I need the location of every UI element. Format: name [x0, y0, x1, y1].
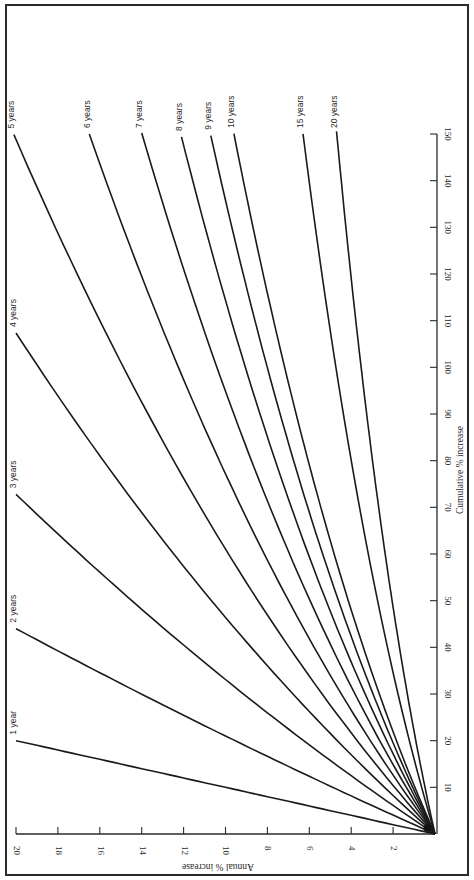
cumulative-tick-label: 150: [443, 127, 453, 141]
cumulative-tick-label: 100: [443, 361, 453, 375]
annual-tick-label: 18: [54, 846, 64, 856]
annual-tick-label: 4: [347, 846, 357, 851]
origin-marker: [424, 825, 431, 832]
annual-tick-label: 2: [389, 846, 399, 851]
curve-10-years: [234, 134, 435, 834]
curve-3-years: [16, 494, 435, 834]
chart: 2468101214161820102030405060708090100110…: [0, 0, 474, 880]
cumulative-tick-label: 10: [443, 783, 453, 793]
cumulative-tick-label: 80: [443, 456, 453, 466]
curve-label: 1 year: [8, 711, 18, 735]
curve-6-years: [89, 134, 435, 834]
cumulative-tick-label: 110: [443, 314, 453, 328]
curve-5-years: [14, 135, 435, 834]
curve-label: 20 years: [329, 95, 339, 128]
curve-label: 9 years: [203, 102, 213, 130]
axes: 2468101214161820102030405060708090100110…: [12, 127, 453, 855]
curve-2-years: [16, 629, 435, 834]
cumulative-axis-title: Cumulative % increase: [455, 426, 465, 514]
curve-15-years: [303, 134, 435, 834]
cumulative-tick-label: 90: [443, 410, 453, 420]
curve-label: 10 years: [226, 95, 236, 128]
annual-tick-label: 6: [305, 846, 315, 851]
curve-20-years: [337, 131, 436, 834]
annual-tick-label: 16: [96, 846, 106, 856]
curve-label: 8 years: [174, 103, 184, 131]
curve-label: 4 years: [8, 299, 18, 327]
annual-axis-title: Annual % increase: [182, 862, 254, 872]
annual-tick-label: 8: [263, 846, 273, 851]
annual-tick-label: 14: [138, 846, 148, 856]
cumulative-tick-label: 30: [443, 690, 453, 700]
curve-label: 7 years: [134, 100, 144, 128]
cumulative-tick-label: 20: [443, 736, 453, 746]
cumulative-tick-label: 60: [443, 550, 453, 560]
cumulative-tick-label: 50: [443, 596, 453, 606]
annual-tick-label: 20: [12, 846, 22, 856]
curve-label: 3 years: [8, 460, 18, 488]
cumulative-tick-label: 70: [443, 503, 453, 513]
cumulative-tick-label: 120: [443, 267, 453, 281]
cumulative-tick-label: 140: [443, 174, 453, 188]
curve-9-years: [211, 136, 435, 834]
curve-label: 15 years: [295, 95, 305, 128]
curve-label: 6 years: [82, 100, 92, 128]
curve-label: 5 years: [6, 101, 16, 129]
curve-8-years: [182, 137, 436, 834]
cumulative-tick-label: 40: [443, 643, 453, 653]
annual-tick-label: 10: [221, 846, 231, 856]
curve-1-years: [16, 741, 435, 834]
curves: 1 year2 years3 years4 years5 years6 year…: [6, 95, 435, 834]
cumulative-tick-label: 130: [443, 221, 453, 235]
annual-tick-label: 12: [180, 846, 190, 855]
curve-label: 2 years: [8, 595, 18, 623]
